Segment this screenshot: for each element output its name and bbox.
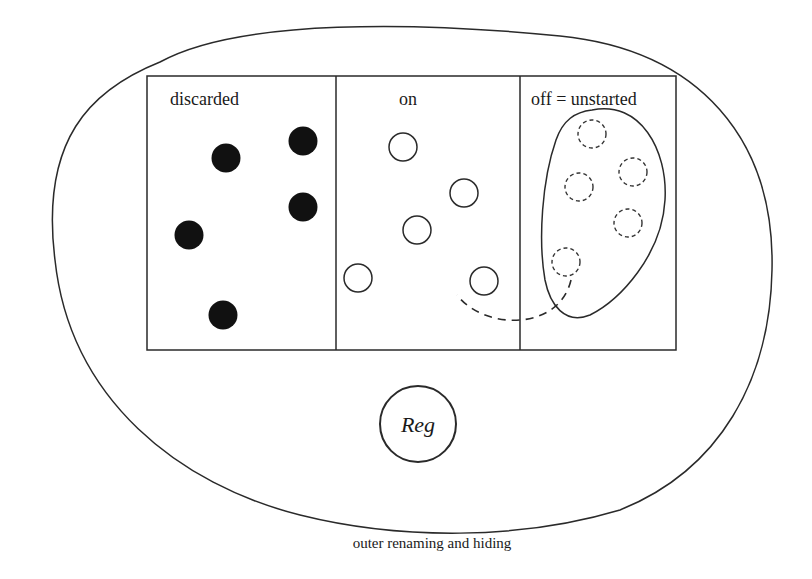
hollow-token-icon — [470, 267, 498, 295]
hollow-token-icon — [403, 216, 431, 244]
dashed-token-icon — [578, 120, 606, 148]
dashed-token-icon — [565, 173, 593, 201]
register-label: Reg — [400, 412, 435, 437]
compartment-label-on: on — [399, 89, 417, 109]
dashed-token-icon — [619, 158, 647, 186]
diagram-canvas: discarded on off = unstarted Reg outer r… — [0, 0, 812, 579]
off-tokens — [552, 120, 647, 276]
dashed-token-icon — [614, 209, 642, 237]
unstarted-group-boundary — [542, 109, 666, 318]
on-tokens — [344, 133, 498, 295]
filled-token-icon — [212, 144, 241, 173]
hollow-token-icon — [389, 133, 417, 161]
filled-token-icon — [289, 127, 318, 156]
dashed-token-icon — [552, 248, 580, 276]
outer-region-caption: outer renaming and hiding — [353, 535, 512, 551]
activation-arrow — [457, 280, 571, 320]
hollow-token-icon — [344, 264, 372, 292]
filled-token-icon — [175, 221, 204, 250]
compartment-label-off: off = unstarted — [531, 89, 637, 109]
hollow-token-icon — [450, 179, 478, 207]
filled-token-icon — [209, 301, 238, 330]
filled-token-icon — [289, 193, 318, 222]
discarded-tokens — [175, 127, 318, 330]
compartment-label-discarded: discarded — [170, 89, 239, 109]
